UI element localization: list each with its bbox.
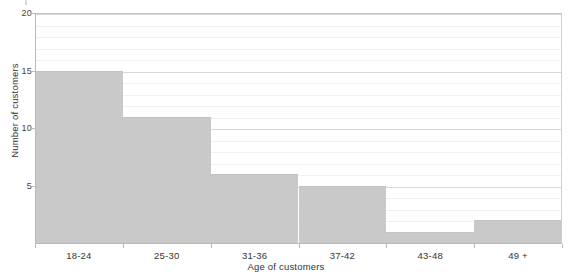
x-axis-tick-mark [123, 244, 124, 248]
y-axis-tick-label: 15 [0, 66, 32, 76]
bar [35, 71, 123, 244]
x-axis-tick-label: 25-30 [123, 250, 211, 261]
x-axis-tick-label: 31-36 [211, 250, 299, 261]
bar [386, 232, 474, 244]
x-axis-title: Age of customers [0, 261, 572, 272]
plot-area [35, 13, 562, 243]
y-axis-tick-label: 10 [0, 123, 32, 133]
x-axis-tick-mark [35, 244, 36, 248]
bar [211, 174, 299, 243]
x-axis-tick-mark [299, 244, 300, 248]
scan-artifact [25, 0, 27, 5]
x-axis-tick-mark [474, 244, 475, 248]
bar [123, 117, 211, 244]
x-axis-tick-mark [562, 244, 563, 248]
x-axis-tick-label: 49 + [474, 250, 562, 261]
bar [474, 220, 562, 243]
x-axis-tick-label: 43-48 [386, 250, 474, 261]
y-axis-tick-label: 5 [0, 181, 32, 191]
y-axis-title: Number of customers [9, 41, 20, 181]
bars-group [35, 14, 561, 243]
x-axis-tick-label: 18-24 [35, 250, 123, 261]
y-axis-line [35, 13, 36, 244]
x-axis-tick-label: 37-42 [299, 250, 387, 261]
x-axis-tick-mark [386, 244, 387, 248]
y-axis-tick-label: 20 [0, 8, 32, 18]
histogram-figure: Number of customers 5101520 18-2425-3031… [0, 0, 572, 277]
bar [299, 186, 387, 244]
x-axis-tick-mark [211, 244, 212, 248]
